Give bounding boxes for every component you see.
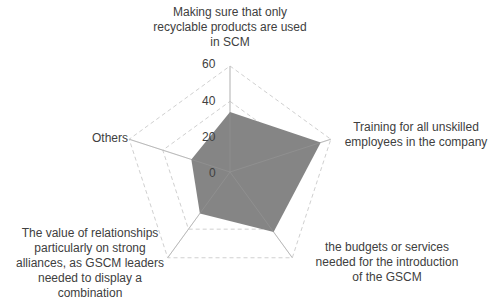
category-label-0: Making sure that only recyclable product… xyxy=(140,5,320,50)
label-line: recyclable products are used xyxy=(140,20,320,35)
label-line: of the GSCM xyxy=(292,270,482,285)
category-label-2: the budgets or services needed for the i… xyxy=(292,240,482,285)
tick-label-60: 60 xyxy=(202,57,215,71)
tick-label-40: 40 xyxy=(202,94,215,108)
tick-label-20: 20 xyxy=(202,130,215,144)
label-line: Training for all unskilled xyxy=(334,120,498,135)
label-line: Making sure that only xyxy=(140,5,320,20)
label-line: the budgets or services xyxy=(292,240,482,255)
label-line: employees in the company xyxy=(334,135,498,150)
category-label-3: The value of relationships particularly … xyxy=(0,226,180,299)
label-line: particularly on strong xyxy=(0,241,180,256)
category-label-1: Training for all unskilled employees in … xyxy=(334,120,498,150)
category-label-4: Others xyxy=(82,131,128,146)
label-line: in SCM xyxy=(140,35,320,50)
label-line: combination xyxy=(0,286,180,299)
tick-label-0: 0 xyxy=(209,166,216,180)
label-line: needed to display a xyxy=(0,271,180,286)
label-line: needed for the introduction xyxy=(292,255,482,270)
label-line: alliances, as GSCM leaders xyxy=(0,256,180,271)
label-line: The value of relationships xyxy=(0,226,180,241)
label-line: Others xyxy=(82,131,128,146)
